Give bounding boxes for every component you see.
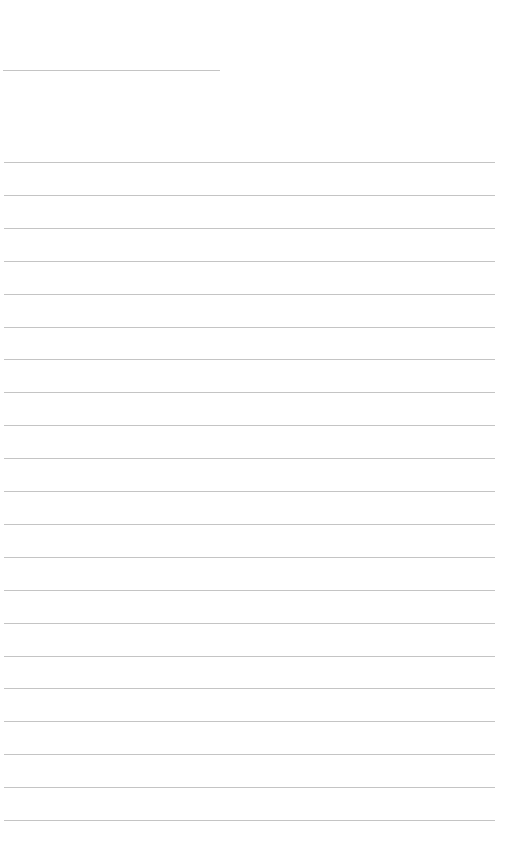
writing-line	[4, 721, 495, 722]
writing-line	[4, 228, 495, 229]
writing-line	[4, 688, 495, 689]
writing-line	[4, 656, 495, 657]
writing-line	[4, 491, 495, 492]
writing-line	[4, 195, 495, 196]
writing-line	[4, 392, 495, 393]
writing-line	[4, 787, 495, 788]
writing-line	[4, 294, 495, 295]
writing-line	[4, 820, 495, 821]
title-rule	[3, 70, 220, 71]
writing-line	[4, 327, 495, 328]
writing-line	[4, 623, 495, 624]
writing-line	[4, 557, 495, 558]
writing-line	[4, 524, 495, 525]
writing-line	[4, 162, 495, 163]
writing-line	[4, 261, 495, 262]
writing-line	[4, 458, 495, 459]
writing-line	[4, 425, 495, 426]
writing-line	[4, 590, 495, 591]
writing-line	[4, 754, 495, 755]
writing-line	[4, 359, 495, 360]
